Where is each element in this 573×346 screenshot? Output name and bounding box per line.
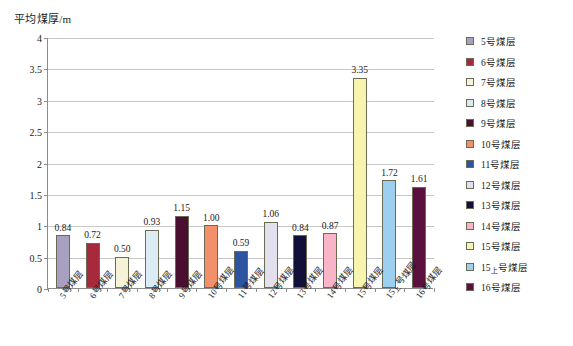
gridline	[48, 132, 434, 133]
y-axis-tick-label: 1	[37, 221, 48, 232]
legend-swatch-icon	[466, 283, 474, 291]
x-axis-tick-mark	[196, 288, 197, 292]
bar-value-label: 1.15	[173, 204, 190, 214]
legend-item[interactable]: 8号煤层	[466, 93, 571, 114]
x-axis-tick-mark	[167, 288, 168, 292]
bar-value-label: 0.84	[55, 224, 72, 234]
x-axis-tick-mark	[315, 288, 316, 292]
gridline	[48, 195, 434, 196]
legend-item[interactable]: 14号煤层	[466, 216, 571, 237]
x-axis-tick-mark	[107, 288, 108, 292]
legend-swatch-icon	[466, 140, 474, 148]
legend-label: 15号煤层	[481, 239, 521, 253]
legend-label: 5号煤层	[481, 34, 516, 48]
x-axis-tick-mark	[286, 288, 287, 292]
bar-value-label: 0.59	[233, 239, 250, 249]
legend-label: 14号煤层	[481, 219, 521, 233]
legend-swatch-icon	[466, 119, 474, 127]
gridline	[48, 164, 434, 165]
legend-label: 13号煤层	[481, 198, 521, 212]
legend-item[interactable]: 15号煤层	[466, 236, 571, 257]
bar[interactable]: 3.35	[353, 78, 367, 288]
legend-label: 9号煤层	[481, 116, 516, 130]
legend-swatch-icon	[466, 99, 474, 107]
legend-label: 8号煤层	[481, 96, 516, 110]
plot-area: 00.511.522.533.540.840.720.500.931.151.0…	[47, 38, 433, 289]
y-axis-tick-label: 2.5	[30, 127, 49, 138]
bar-value-label: 1.00	[203, 214, 220, 224]
bar-value-label: 0.50	[114, 245, 131, 255]
legend-swatch-icon	[466, 201, 474, 209]
gridline	[48, 226, 434, 227]
legend-item[interactable]: 11号煤层	[466, 154, 571, 175]
legend-label: 6号煤层	[481, 55, 516, 69]
y-axis-tick-label: 0.5	[30, 252, 49, 263]
legend-item[interactable]: 7号煤层	[466, 72, 571, 93]
y-axis-tick-label: 0	[37, 284, 48, 295]
bar-value-label: 0.87	[322, 222, 339, 232]
legend-swatch-icon	[466, 58, 474, 66]
gridline	[48, 69, 434, 70]
bar-value-label: 3.35	[351, 66, 368, 76]
legend-label: 10号煤层	[481, 137, 521, 151]
y-axis-tick-label: 1.5	[30, 189, 49, 200]
x-axis-tick-mark	[137, 288, 138, 292]
legend-item[interactable]: 16号煤层	[466, 277, 571, 298]
gridline	[48, 38, 434, 39]
legend-label: 12号煤层	[481, 178, 521, 192]
gridline	[48, 101, 434, 102]
legend-item[interactable]: 5号煤层	[466, 31, 571, 52]
y-axis-tick-label: 3	[37, 95, 48, 106]
legend-swatch-icon	[466, 160, 474, 168]
y-axis-tick-label: 2	[37, 158, 48, 169]
legend-swatch-icon	[466, 78, 474, 86]
x-axis-tick-mark	[48, 288, 49, 292]
bar-value-label: 0.72	[84, 231, 101, 241]
legend-item[interactable]: 10号煤层	[466, 134, 571, 155]
bar-chart: 平均煤厚/m 00.511.522.533.540.840.720.500.93…	[0, 0, 573, 346]
y-axis-tick-label: 3.5	[30, 64, 49, 75]
legend-swatch-icon	[466, 242, 474, 250]
bar-value-label: 0.93	[144, 218, 161, 228]
x-axis-tick-mark	[434, 288, 435, 292]
chart-title: 平均煤厚/m	[14, 10, 71, 26]
x-axis-tick-mark	[404, 288, 405, 292]
chart-legend: 5号煤层6号煤层7号煤层8号煤层9号煤层10号煤层11号煤层12号煤层13号煤层…	[466, 31, 571, 298]
legend-swatch-icon	[466, 222, 474, 230]
x-axis-tick-mark	[375, 288, 376, 292]
x-axis-tick-mark	[256, 288, 257, 292]
bar-rect	[353, 78, 367, 288]
legend-item[interactable]: 15上号煤层	[466, 257, 571, 278]
x-axis-tick-mark	[345, 288, 346, 292]
legend-item[interactable]: 12号煤层	[466, 175, 571, 196]
legend-swatch-icon	[466, 37, 474, 45]
legend-item[interactable]: 9号煤层	[466, 113, 571, 134]
legend-item[interactable]: 13号煤层	[466, 195, 571, 216]
legend-label: 11号煤层	[481, 157, 520, 171]
legend-label: 7号煤层	[481, 75, 516, 89]
x-axis-tick-mark	[226, 288, 227, 292]
legend-item[interactable]: 6号煤层	[466, 52, 571, 73]
x-axis-tick-mark	[78, 288, 79, 292]
bar-value-label: 1.06	[262, 210, 279, 220]
legend-swatch-icon	[466, 263, 474, 271]
legend-label: 15上号煤层	[481, 260, 528, 274]
legend-swatch-icon	[466, 181, 474, 189]
bar-value-label: 1.72	[381, 169, 398, 179]
bar-value-label: 1.61	[411, 175, 428, 185]
legend-label: 16号煤层	[481, 280, 521, 294]
y-axis-tick-label: 4	[37, 33, 48, 44]
bar-value-label: 0.84	[292, 224, 309, 234]
